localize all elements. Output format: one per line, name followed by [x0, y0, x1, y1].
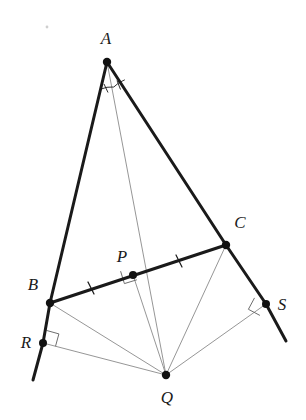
point-r-dot [39, 339, 47, 347]
geometry-canvas: A B C P Q R S [0, 0, 306, 420]
perpendicular-pq [133, 275, 166, 375]
perpendicular-sq [166, 304, 266, 375]
geometry-diagram-root: A B C P Q R S [0, 0, 306, 420]
extension-cs [226, 245, 266, 304]
point-a-dot [103, 58, 111, 66]
point-s-dot [262, 300, 270, 308]
side-ab [50, 62, 107, 303]
perpendicular-rq [43, 343, 166, 375]
extension-below-r [33, 343, 43, 380]
extension-br [43, 303, 50, 343]
side-ac [107, 62, 226, 245]
label-a: A [100, 29, 112, 48]
point-c-dot [222, 241, 230, 249]
segment-cq [166, 245, 226, 375]
point-b-dot [46, 299, 54, 307]
label-p: P [116, 247, 127, 266]
point-p-dot [129, 271, 137, 279]
label-q: Q [161, 388, 173, 407]
right-angle-at-s [248, 298, 260, 316]
label-r: R [20, 333, 32, 352]
scan-artifact-speck [46, 26, 49, 29]
label-s: S [278, 295, 287, 314]
point-q-dot [162, 371, 170, 379]
thick-lines-group [33, 62, 286, 380]
vertex-labels-group: A B C P Q R S [20, 29, 287, 407]
side-bc [50, 245, 226, 303]
segment-bq [50, 303, 166, 375]
thin-lines-group [43, 62, 266, 375]
label-b: B [28, 275, 39, 294]
label-c: C [234, 213, 246, 232]
